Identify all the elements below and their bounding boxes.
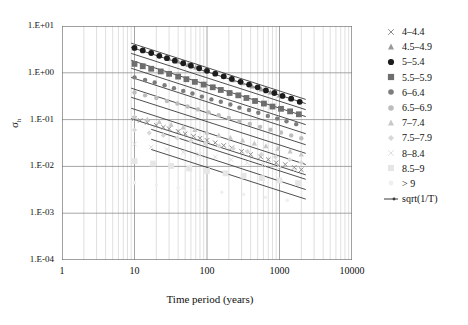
legend-item-label: 6.5–6.9	[399, 102, 432, 113]
cross-icon	[383, 26, 399, 38]
chart-legend: 4–4.44.5–4.95–5.45.5–5.96–6.46.5–6.97–7.…	[383, 24, 467, 206]
circle-icon	[383, 56, 399, 68]
legend-item-label: 5–5.4	[399, 56, 425, 67]
legend-item: 6.5–6.9	[383, 100, 467, 115]
none-icon	[383, 177, 399, 189]
legend-item: 8.5–9	[383, 161, 467, 176]
chart-root: 1.E+011.E+001.E-011.E-021.E-031.E-04 110…	[0, 0, 468, 325]
legend-item: 5–5.4	[383, 54, 467, 69]
triangle-icon	[383, 41, 399, 53]
y-tick-label: 1.E-02	[2, 161, 54, 170]
x-tick-label: 10000	[332, 266, 372, 276]
square-icon	[383, 162, 399, 174]
x-tick-label: 1000	[260, 266, 300, 276]
y-axis-title-subscript: h	[15, 119, 23, 123]
cross-icon	[383, 147, 399, 159]
y-axis-title: σh	[8, 119, 23, 128]
square-icon	[383, 71, 399, 83]
y-tick-label: 1.E+00	[2, 68, 54, 77]
legend-item: 4.5–4.9	[383, 39, 467, 54]
legend-item: 4–4.4	[383, 24, 467, 39]
legend-item-label: sqrt(1/T)	[399, 193, 438, 204]
legend-item: 6–6.4	[383, 85, 467, 100]
series-6-6.4	[132, 75, 298, 126]
legend-item-label: 7.5–7.9	[399, 132, 432, 143]
x-tick-label: 10	[115, 266, 155, 276]
line-icon	[383, 193, 399, 205]
legend-item: 7–7.4	[383, 115, 467, 130]
legend-item-label: 4.5–4.9	[399, 41, 432, 52]
y-tick-label: 1.E-04	[2, 255, 54, 264]
legend-item-label: 8.5–9	[399, 163, 425, 174]
plot-area	[62, 26, 352, 260]
legend-item: 7.5–7.9	[383, 130, 467, 145]
minor-gridlines	[84, 26, 349, 260]
legend-item: 8–8.4	[383, 146, 467, 161]
legend-item: > 9	[383, 176, 467, 191]
plot-svg	[62, 26, 352, 260]
circle-small-icon	[383, 102, 399, 114]
y-tick-label: 1.E+01	[2, 21, 54, 30]
legend-item-label: 6–6.4	[399, 87, 425, 98]
legend-item-label: 8–8.4	[399, 148, 425, 159]
legend-item-label: 5.5–5.9	[399, 72, 432, 83]
triangle-icon	[383, 117, 399, 129]
x-tick-label: 100	[187, 266, 227, 276]
y-axis-title-text: σ	[8, 122, 20, 128]
legend-item-label: 7–7.4	[399, 117, 425, 128]
legend-item-label: 4–4.4	[399, 26, 425, 37]
diamond-icon	[383, 132, 399, 144]
x-tick-label: 1	[42, 266, 82, 276]
legend-item: sqrt(1/T)	[383, 191, 467, 206]
legend-item: 5.5–5.9	[383, 70, 467, 85]
legend-item-label: > 9	[399, 178, 415, 189]
circle-small-icon	[383, 86, 399, 98]
y-tick-label: 1.E-03	[2, 208, 54, 217]
x-axis-title: Time period (years)	[110, 293, 310, 305]
